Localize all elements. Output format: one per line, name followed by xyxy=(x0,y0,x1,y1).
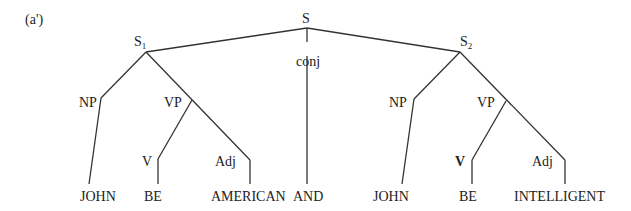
figure-label: (a') xyxy=(25,12,43,28)
node-s2: S2 xyxy=(460,34,472,51)
node-s: S xyxy=(302,11,310,26)
node-s2-subscript: 2 xyxy=(468,41,473,51)
node-np2: NP xyxy=(389,95,407,110)
node-v2: V xyxy=(455,154,465,169)
edge-np1-john xyxy=(89,98,101,184)
syntax-tree: (a') S S1 S2 conj NP VP V Adj NP VP V Ad… xyxy=(0,0,631,211)
leaf-and: AND xyxy=(293,189,323,204)
edge-np2-john xyxy=(402,99,414,184)
leaf-american: AMERICAN xyxy=(211,189,286,204)
node-s1-subscript: 1 xyxy=(142,41,147,51)
node-s1: S1 xyxy=(134,34,146,51)
leaf-john-1: JOHN xyxy=(80,189,116,204)
node-v1: V xyxy=(142,154,152,169)
node-conj: conj xyxy=(296,54,320,69)
edge-s-s1 xyxy=(146,28,307,52)
node-np1: NP xyxy=(79,95,97,110)
node-vp2: VP xyxy=(477,95,495,110)
node-vp1: VP xyxy=(164,95,182,110)
node-s2-label: S xyxy=(460,34,468,49)
leaf-be-1: BE xyxy=(144,189,162,204)
edge-s-s2 xyxy=(307,28,460,52)
node-adj1: Adj xyxy=(215,154,236,169)
edge-s1-vp1 xyxy=(146,52,250,160)
node-s1-label: S xyxy=(134,34,142,49)
edge-s2-vp2 xyxy=(460,52,565,160)
leaf-intelligent: INTELLIGENT xyxy=(514,189,605,204)
leaf-be-2: BE xyxy=(459,189,477,204)
node-adj2: Adj xyxy=(532,154,553,169)
edge-s2-np2 xyxy=(414,52,460,99)
edge-s1-np1 xyxy=(101,52,146,98)
leaf-john-2: JOHN xyxy=(373,189,409,204)
